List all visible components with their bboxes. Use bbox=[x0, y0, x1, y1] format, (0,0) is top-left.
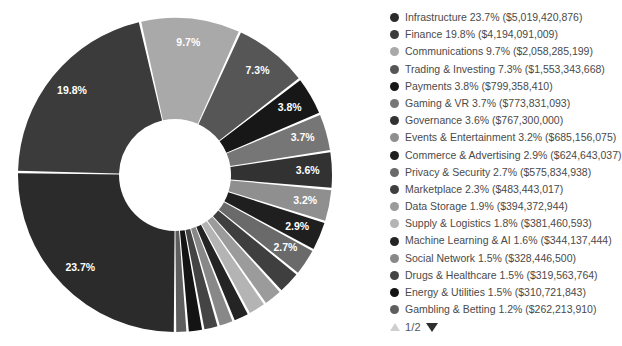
legend-color-swatch-icon bbox=[390, 202, 399, 211]
legend-color-swatch-icon bbox=[390, 47, 399, 56]
slice-percent-label: 3.6% bbox=[296, 164, 321, 176]
legend-item-label: Privacy & Security 2.7% ($575,834,938) bbox=[405, 164, 591, 181]
legend-item[interactable]: Events & Entertainment 3.2% ($685,156,07… bbox=[390, 129, 616, 146]
legend-color-swatch-icon bbox=[390, 151, 399, 160]
legend-item[interactable]: Supply & Logistics 1.8% ($381,460,593) bbox=[390, 215, 616, 232]
legend-color-swatch-icon bbox=[390, 65, 399, 74]
triangle-down-icon[interactable] bbox=[426, 323, 438, 332]
legend-item[interactable]: Social Network 1.5% ($328,446,500) bbox=[390, 250, 616, 267]
legend-color-swatch-icon bbox=[390, 168, 399, 177]
legend-item-label: Commerce & Advertising 2.9% ($624,643,03… bbox=[405, 147, 622, 164]
legend-item-label: Energy & Utilities 1.5% ($310,721,843) bbox=[405, 284, 586, 301]
donut-slice[interactable] bbox=[18, 173, 175, 332]
legend-color-swatch-icon bbox=[390, 254, 399, 263]
legend-item[interactable]: Privacy & Security 2.7% ($575,834,938) bbox=[390, 164, 616, 181]
legend-color-swatch-icon bbox=[390, 13, 399, 22]
legend-item[interactable]: Governance 3.6% ($767,300,000) bbox=[390, 112, 616, 129]
slice-percent-label: 19.8% bbox=[57, 84, 87, 96]
legend-color-swatch-icon bbox=[390, 82, 399, 91]
triangle-up-icon[interactable] bbox=[390, 323, 400, 331]
legend-item[interactable]: Marketplace 2.3% ($483,443,017) bbox=[390, 181, 616, 198]
legend-item-label: Infrastructure 23.7% ($5,019,420,876) bbox=[405, 9, 582, 26]
legend-item-label: Events & Entertainment 3.2% ($685,156,07… bbox=[405, 129, 616, 146]
legend-item[interactable]: Machine Learning & AI 1.6% ($344,137,444… bbox=[390, 232, 616, 249]
legend-color-swatch-icon bbox=[390, 305, 399, 314]
legend-item-label: Machine Learning & AI 1.6% ($344,137,444… bbox=[405, 232, 612, 249]
slice-percent-label: 9.7% bbox=[176, 36, 201, 48]
legend-item-label: Drugs & Healthcare 1.5% ($319,563,764) bbox=[405, 267, 598, 284]
legend-item-label: Payments 3.8% ($799,358,410) bbox=[405, 78, 553, 95]
legend-item-label: Marketplace 2.3% ($483,443,017) bbox=[405, 181, 563, 198]
legend-item-label: Data Storage 1.9% ($394,372,944) bbox=[405, 198, 568, 215]
legend-color-swatch-icon bbox=[390, 219, 399, 228]
legend-color-swatch-icon bbox=[390, 133, 399, 142]
legend-pager[interactable]: 1/2 bbox=[390, 321, 438, 333]
chart-legend: Infrastructure 23.7% ($5,019,420,876)Fin… bbox=[390, 9, 616, 318]
slice-percent-label: 2.9% bbox=[285, 220, 310, 232]
legend-item-label: Trading & Investing 7.3% ($1,553,343,668… bbox=[405, 61, 605, 78]
legend-color-swatch-icon bbox=[390, 99, 399, 108]
legend-item[interactable]: Drugs & Healthcare 1.5% ($319,563,764) bbox=[390, 267, 616, 284]
legend-item[interactable]: Payments 3.8% ($799,358,410) bbox=[390, 78, 616, 95]
legend-item-label: Finance 19.8% ($4,194,091,009) bbox=[405, 26, 558, 43]
legend-item-label: Gambling & Betting 1.2% ($262,213,910) bbox=[405, 301, 596, 318]
legend-item[interactable]: Data Storage 1.9% ($394,372,944) bbox=[390, 198, 616, 215]
legend-color-swatch-icon bbox=[390, 30, 399, 39]
legend-item-label: Communications 9.7% ($2,058,285,199) bbox=[405, 43, 593, 60]
legend-item-label: Supply & Logistics 1.8% ($381,460,593) bbox=[405, 215, 592, 232]
slice-percent-label: 7.3% bbox=[246, 64, 271, 76]
legend-color-swatch-icon bbox=[390, 185, 399, 194]
legend-item-label: Social Network 1.5% ($328,446,500) bbox=[405, 250, 576, 267]
donut-chart-svg[interactable]: 23.7%19.8%9.7%7.3%3.8%3.7%3.6%3.2%2.9%2.… bbox=[0, 0, 380, 346]
legend-item[interactable]: Commerce & Advertising 2.9% ($624,643,03… bbox=[390, 147, 616, 164]
slice-percent-label: 23.7% bbox=[65, 261, 95, 273]
donut-slice[interactable] bbox=[18, 22, 162, 173]
legend-item[interactable]: Trading & Investing 7.3% ($1,553,343,668… bbox=[390, 61, 616, 78]
pager-label: 1/2 bbox=[405, 321, 421, 333]
donut-slices-group[interactable] bbox=[18, 18, 332, 332]
slice-percent-label: 3.8% bbox=[278, 101, 303, 113]
legend-item[interactable]: Energy & Utilities 1.5% ($310,721,843) bbox=[390, 284, 616, 301]
legend-item[interactable]: Gambling & Betting 1.2% ($262,213,910) bbox=[390, 301, 616, 318]
slice-percent-label: 3.7% bbox=[291, 131, 316, 143]
legend-item-label: Gaming & VR 3.7% ($773,831,093) bbox=[405, 95, 570, 112]
chart-area: 23.7%19.8%9.7%7.3%3.8%3.7%3.6%3.2%2.9%2.… bbox=[0, 0, 380, 346]
legend-color-swatch-icon bbox=[390, 271, 399, 280]
legend-color-swatch-icon bbox=[390, 288, 399, 297]
legend-color-swatch-icon bbox=[390, 116, 399, 125]
legend-item[interactable]: Gaming & VR 3.7% ($773,831,093) bbox=[390, 95, 616, 112]
legend-item[interactable]: Infrastructure 23.7% ($5,019,420,876) bbox=[390, 9, 616, 26]
slice-percent-label: 3.2% bbox=[293, 194, 318, 206]
legend-item-label: Governance 3.6% ($767,300,000) bbox=[405, 112, 563, 129]
legend-color-swatch-icon bbox=[390, 237, 399, 246]
legend-item[interactable]: Communications 9.7% ($2,058,285,199) bbox=[390, 43, 616, 60]
slice-percent-label: 2.7% bbox=[273, 241, 298, 253]
legend-item[interactable]: Finance 19.8% ($4,194,091,009) bbox=[390, 26, 616, 43]
